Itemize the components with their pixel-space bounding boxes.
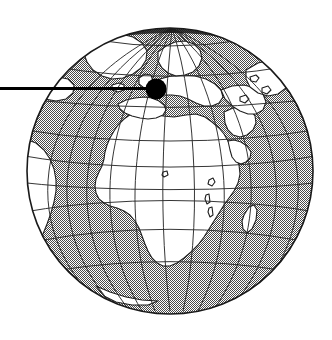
globe-figure — [0, 0, 332, 340]
location-marker[interactable] — [146, 79, 167, 100]
globe-illustration — [0, 0, 332, 340]
